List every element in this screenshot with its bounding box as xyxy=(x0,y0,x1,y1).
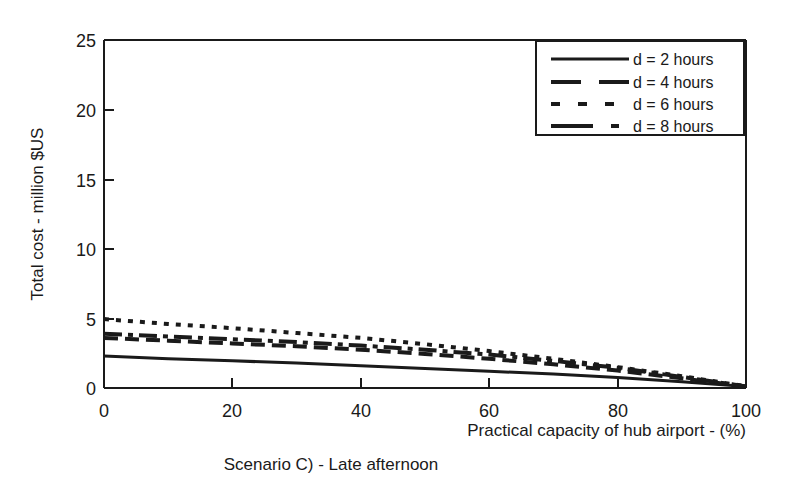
legend-label-d4: d = 4 hours xyxy=(633,74,714,91)
chart-caption: Scenario C) - Late afternoon xyxy=(224,455,439,474)
y-tick-label-20: 20 xyxy=(76,101,96,121)
x-tick-label-80: 80 xyxy=(608,401,628,421)
x-tick-label-40: 40 xyxy=(351,401,371,421)
x-tick-label-100: 100 xyxy=(731,401,761,421)
y-tick-label-10: 10 xyxy=(76,240,96,260)
y-tick-label-25: 25 xyxy=(76,31,96,51)
y-tick-label-0: 0 xyxy=(86,379,96,399)
legend-label-d6: d = 6 hours xyxy=(633,96,714,113)
legend: d = 2 hours d = 4 hours d = 6 hours d = … xyxy=(536,41,744,135)
x-tick-label-0: 0 xyxy=(99,401,109,421)
y-tick-label-15: 15 xyxy=(76,171,96,191)
line-chart: 25 20 15 10 5 0 0 20 40 60 80 100 Total … xyxy=(0,0,791,499)
x-tick-label-60: 60 xyxy=(479,401,499,421)
y-axis-title: Total cost - million $US xyxy=(28,128,47,301)
y-tick-label-5: 5 xyxy=(86,310,96,330)
x-tick-label-20: 20 xyxy=(222,401,242,421)
x-axis-title: Practical capacity of hub airport - (%) xyxy=(467,421,746,440)
legend-label-d8: d = 8 hours xyxy=(633,118,714,135)
legend-label-d2: d = 2 hours xyxy=(633,51,714,68)
chart-figure: 25 20 15 10 5 0 0 20 40 60 80 100 Total … xyxy=(0,0,791,499)
